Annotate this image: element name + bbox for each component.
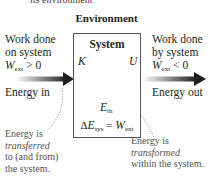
eth-var: E <box>100 101 107 113</box>
note-line: the system. <box>5 163 58 175</box>
kinetic-energy-k: K <box>78 55 86 67</box>
note-line: Energy is <box>131 135 204 147</box>
note-line: within the system. <box>131 158 204 170</box>
note-emphasis: transformed <box>131 147 180 158</box>
energy-equation: ΔEsys = Wext <box>74 119 140 133</box>
e-var: E <box>88 119 95 131</box>
note-emphasis: transferred <box>5 140 50 151</box>
note-line: to (and from) <box>5 151 58 163</box>
transformed-note: Energy is transformed within the system. <box>131 135 204 170</box>
note-line: Energy is <box>5 128 58 140</box>
transferred-note: Energy is transferred to (and from) the … <box>5 128 58 174</box>
potential-energy-u: U <box>129 55 137 67</box>
eth-sub: th <box>107 107 112 115</box>
system-box: System K U Eth ΔEsys = Wext <box>73 33 141 138</box>
energy-out-arrow <box>142 72 206 86</box>
energy-in-arrow <box>16 72 74 86</box>
transferred-dotted-line <box>48 88 63 130</box>
equals-sign: = <box>104 119 116 131</box>
w-var: W <box>115 119 125 131</box>
delta-symbol: Δ <box>81 119 88 131</box>
sys-sub: sys <box>95 125 104 133</box>
ext-sub: ext <box>125 125 134 133</box>
system-title: System <box>74 38 140 50</box>
thermal-energy-eth: Eth <box>100 97 112 115</box>
